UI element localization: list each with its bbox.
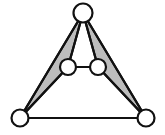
graph-diagram-figure bbox=[0, 0, 165, 135]
graph-diagram-canvas bbox=[0, 0, 165, 135]
edges-group bbox=[20, 13, 146, 118]
node-mid-left bbox=[60, 59, 76, 75]
shaded-faces-group bbox=[20, 13, 146, 118]
nodes-group bbox=[12, 4, 155, 127]
edge-mid-right-bottom-right bbox=[98, 67, 146, 118]
node-apex bbox=[74, 4, 93, 23]
node-mid-right bbox=[90, 59, 106, 75]
edge-mid-left-bottom-left bbox=[20, 67, 68, 118]
node-bottom-left bbox=[12, 110, 29, 127]
node-bottom-right bbox=[138, 110, 155, 127]
